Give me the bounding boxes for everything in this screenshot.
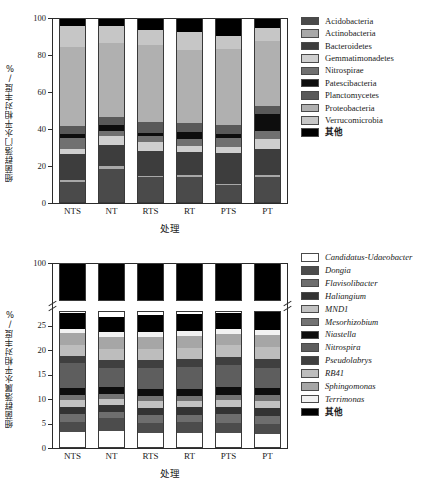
bar-segment [99, 43, 124, 117]
bar-segment [216, 36, 241, 49]
legend-swatch-icon [301, 128, 319, 137]
legend-item: Dongia [301, 264, 412, 277]
bar-segment [138, 122, 163, 133]
stacked-bar-upper[interactable] [98, 263, 125, 301]
y-tick-label: 10 [16, 395, 46, 404]
stacked-bar-upper[interactable] [59, 263, 86, 301]
stacked-bar-lower[interactable] [254, 311, 281, 448]
legend-label: Patescibacteria [325, 79, 377, 88]
legend-swatch-icon [301, 54, 319, 63]
bar-column [215, 263, 242, 448]
legend-label: Terrimonas [325, 395, 364, 404]
legend-swatch-icon [301, 253, 319, 262]
bar-segment [99, 117, 124, 125]
legend-label: Mesorhizobium [325, 318, 378, 327]
bar-segment [177, 415, 202, 422]
bar-segment [216, 49, 241, 126]
stacked-bar-lower[interactable] [137, 311, 164, 448]
phylum-right-spine [287, 18, 288, 204]
bar-segment [60, 313, 85, 329]
y-tick-label: 100 [16, 14, 46, 23]
legend-label: Gemmatimonadetes [325, 54, 394, 63]
genus-x-axis-label: 处理 [52, 466, 287, 480]
legend-label: Proteobacteria [325, 104, 375, 113]
y-tick-label: 20 [16, 162, 46, 171]
legend-swatch-icon [301, 343, 319, 352]
x-tick-label: NT [98, 451, 125, 461]
legend-item: Proteobacteria [301, 102, 394, 114]
bar-segment [138, 45, 163, 122]
bar-segment [138, 18, 163, 30]
bar-segment [216, 400, 241, 407]
stacked-bar[interactable] [98, 18, 125, 203]
bar-segment [99, 169, 124, 202]
y-tick-mark [48, 424, 52, 425]
x-tick-label: PT [254, 206, 281, 216]
bar-segment [60, 138, 85, 149]
bar-segment [177, 389, 202, 396]
bar-segment [99, 349, 124, 360]
y-tick-mark [48, 263, 52, 264]
legend-item: Nitrospira [301, 341, 412, 354]
bar-segment [255, 416, 280, 424]
bar-segment [255, 368, 280, 389]
genus-y-axis-label: 细菌群落属水平相对丰度/% [2, 245, 18, 491]
bar-segment [255, 149, 280, 175]
legend-label: Sphingomonas [325, 382, 376, 391]
y-tick-label: 40 [16, 125, 46, 134]
stacked-bar-upper[interactable] [137, 263, 164, 301]
genus-bar-group [53, 263, 287, 448]
bar-segment [177, 177, 202, 202]
bar-segment [60, 126, 85, 133]
stacked-bar[interactable] [215, 18, 242, 203]
stacked-bar-lower[interactable] [215, 311, 242, 448]
y-tick-mark [48, 375, 52, 376]
legend-label: Bacteroidetes [325, 42, 372, 51]
legend-item: Gemmatimonadetes [301, 52, 394, 64]
bar-segment [216, 125, 241, 133]
legend-label: 其他 [325, 128, 343, 137]
stacked-bar[interactable] [59, 18, 86, 203]
stacked-bar-lower[interactable] [59, 311, 86, 448]
bar-segment [216, 433, 241, 447]
legend-swatch-icon [301, 369, 319, 378]
stacked-bar-lower[interactable] [98, 311, 125, 448]
legend-swatch-icon [301, 91, 319, 100]
bar-segment [177, 123, 202, 132]
bar-segment [99, 317, 124, 332]
bar-segment [99, 145, 124, 167]
bar-segment [99, 360, 124, 368]
legend-item: Bacteroidetes [301, 40, 394, 52]
bar-segment [216, 407, 241, 414]
x-tick-label: RT [176, 451, 203, 461]
legend-item: Verrucomicrobia [301, 114, 394, 126]
bar-segment [255, 401, 280, 408]
stacked-bar-upper[interactable] [176, 263, 203, 301]
bar-segment [99, 136, 124, 144]
bar-segment [60, 26, 85, 46]
stacked-bar[interactable] [254, 18, 281, 203]
legend-swatch-icon [301, 116, 319, 125]
bar-segment [177, 18, 202, 32]
legend-label: Niastella [325, 330, 356, 339]
x-tick-label: NTS [59, 206, 86, 216]
bar-column [176, 18, 203, 203]
bar-segment [177, 32, 202, 50]
stacked-bar-lower[interactable] [176, 311, 203, 448]
stacked-bar-upper[interactable] [254, 263, 281, 301]
stacked-bar-upper[interactable] [215, 263, 242, 301]
stacked-bar[interactable] [137, 18, 164, 203]
legend-item: 其他 [301, 406, 412, 419]
bar-segment [138, 408, 163, 415]
phylum-x-axis-label: 处理 [52, 221, 287, 235]
bar-segment [177, 367, 202, 389]
legend-item: 其他 [301, 127, 394, 139]
bar-segment [60, 400, 85, 407]
stacked-bar[interactable] [176, 18, 203, 203]
y-tick-mark [48, 203, 52, 204]
bar-segment [255, 434, 280, 447]
y-tick-mark [48, 129, 52, 130]
bar-segment [177, 401, 202, 408]
phylum-x-tick-labels: NTSNTRTSRTPTSPT [53, 206, 287, 216]
bar-segment [138, 349, 163, 360]
